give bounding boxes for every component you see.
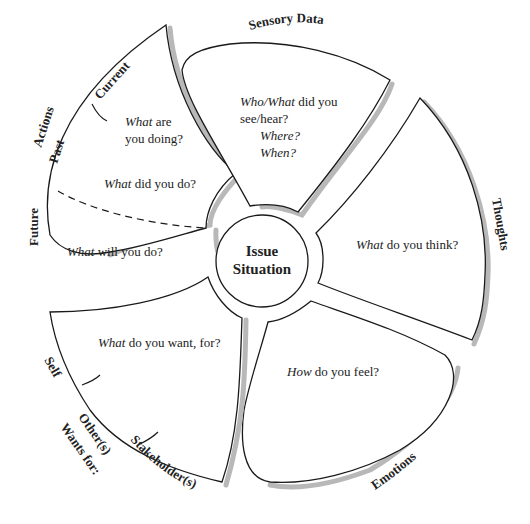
actions-future-label: Future xyxy=(26,208,41,246)
hub-title-line2: Situation xyxy=(233,261,292,277)
emotions-petal xyxy=(242,301,458,487)
thoughts-label: Thoughts xyxy=(489,197,513,252)
actions-future-question: What will you do? xyxy=(67,244,163,259)
issue-situation-diagram: Issue Situation What are you doing? What… xyxy=(0,0,530,524)
sensory-question-line2: see/hear? xyxy=(240,111,289,126)
sensory-question-where: Where? xyxy=(260,128,300,143)
sensory-question-when: When? xyxy=(260,145,297,160)
actions-past-question: What did you do? xyxy=(104,176,196,191)
wants-self-label: Self xyxy=(41,354,65,380)
sensory-data-label: Sensory Data xyxy=(247,10,326,33)
actions-current-question-line1: What are xyxy=(125,114,172,129)
thoughts-question: What do you think? xyxy=(356,237,458,252)
emotions-question: How do you feel? xyxy=(286,364,379,379)
hub-title-line1: Issue xyxy=(246,243,279,259)
sensory-question-line1: Who/What did you xyxy=(240,94,338,109)
wants-question: What do you want, for? xyxy=(98,335,221,350)
actions-current-question-line2: you doing? xyxy=(125,131,183,146)
